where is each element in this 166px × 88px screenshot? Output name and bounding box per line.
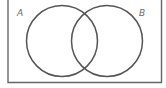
set-b-circle [72,6,143,77]
set-b-label: B [139,9,145,18]
set-a-label: A [17,9,23,18]
venn-diagram: A B [0,0,166,88]
set-a-circle [27,6,98,77]
